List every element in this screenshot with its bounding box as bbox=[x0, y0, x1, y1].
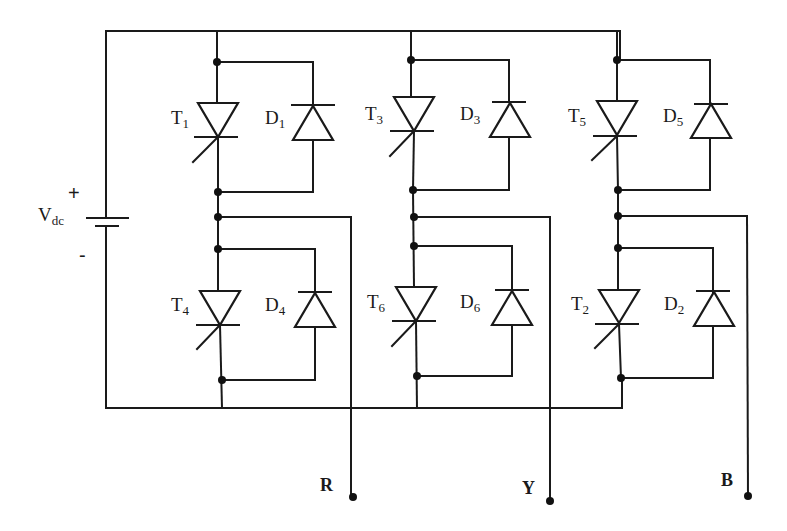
d4-label: D4 bbox=[265, 294, 286, 318]
thyristor-t5 bbox=[592, 101, 637, 190]
output-wire bbox=[747, 216, 748, 495]
output-terminal-r bbox=[349, 493, 357, 501]
d1-label: D1 bbox=[265, 107, 285, 131]
leg-r: T1 D1 T4 D4 R bbox=[171, 31, 357, 501]
diode-d4 bbox=[295, 292, 335, 327]
diode-d3 bbox=[490, 102, 530, 137]
leg-b: T5 D5 T2 D2 B bbox=[568, 31, 752, 500]
t2-label: T2 bbox=[571, 293, 589, 317]
leg-y: T3 D3 T6 D6 Y bbox=[365, 31, 554, 505]
plus-sign: + bbox=[68, 182, 80, 204]
minus-sign: - bbox=[79, 244, 86, 266]
thyristor-t3 bbox=[390, 97, 434, 190]
d3-label: D3 bbox=[460, 103, 480, 127]
d6-label: D6 bbox=[460, 291, 481, 315]
diode-d2 bbox=[694, 291, 734, 326]
t5-label: T5 bbox=[568, 105, 586, 129]
t4-label: T4 bbox=[171, 294, 190, 318]
thyristor-t6 bbox=[392, 287, 436, 408]
inverter-circuit-diagram: Vdc + - T1 D1 bbox=[0, 0, 787, 531]
diode-d5 bbox=[691, 104, 731, 138]
thyristor-t2 bbox=[595, 290, 639, 378]
t1-label: T1 bbox=[171, 107, 189, 131]
output-terminal-b bbox=[744, 492, 752, 500]
thyristor-t4 bbox=[197, 291, 240, 408]
source-label: Vdc bbox=[38, 204, 64, 228]
thyristor-t1 bbox=[193, 103, 238, 192]
leg-wire bbox=[413, 190, 414, 287]
d5-label: D5 bbox=[663, 105, 683, 129]
output-terminal-y bbox=[546, 497, 554, 505]
t6-label: T6 bbox=[367, 291, 386, 315]
output-label-y: Y bbox=[522, 478, 535, 498]
dc-source: Vdc + - bbox=[38, 182, 128, 266]
d2-label: D2 bbox=[664, 293, 684, 317]
output-label-b: B bbox=[721, 470, 733, 490]
t3-label: T3 bbox=[365, 103, 383, 127]
dc-bus bbox=[106, 31, 622, 408]
diode-d1 bbox=[292, 105, 334, 140]
output-label-r: R bbox=[320, 475, 334, 495]
diode-d6 bbox=[492, 290, 532, 325]
